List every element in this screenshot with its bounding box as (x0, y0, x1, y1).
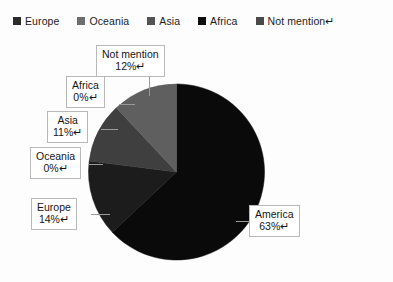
data-label-not-mention-value: 12%↵ (102, 60, 159, 72)
pie-slices (88, 84, 264, 260)
data-label-asia-value: 11%↵ (53, 126, 82, 138)
leader-line-europe (91, 214, 110, 215)
data-label-america[interactable]: America 63%↵ (249, 205, 300, 237)
data-label-asia[interactable]: Asia 11%↵ (47, 111, 88, 143)
leader-line-africa (119, 104, 135, 105)
data-label-africa[interactable]: Africa 0%↵ (66, 76, 105, 108)
data-label-america-value: 63%↵ (255, 220, 294, 232)
data-label-europe[interactable]: Europe 14%↵ (31, 198, 77, 230)
leader-line-oceania (88, 164, 103, 165)
pie-chart-figure: Europe Oceania Asia Africa Not mention↵ … (0, 0, 393, 282)
data-label-not-mention-category: Not mention (102, 48, 159, 60)
data-label-africa-value: 0%↵ (72, 91, 99, 103)
data-label-africa-category: Africa (72, 79, 99, 91)
data-label-oceania-value: 0%↵ (36, 162, 75, 174)
data-label-not-mention[interactable]: Not mention 12%↵ (96, 45, 165, 77)
data-label-oceania-category: Oceania (36, 150, 75, 162)
leader-line-asia (101, 129, 118, 130)
data-label-america-category: America (255, 208, 294, 220)
data-label-oceania[interactable]: Oceania 0%↵ (30, 147, 81, 179)
data-label-europe-value: 14%↵ (37, 213, 71, 225)
data-label-europe-category: Europe (37, 201, 71, 213)
data-label-asia-category: Asia (53, 114, 82, 126)
